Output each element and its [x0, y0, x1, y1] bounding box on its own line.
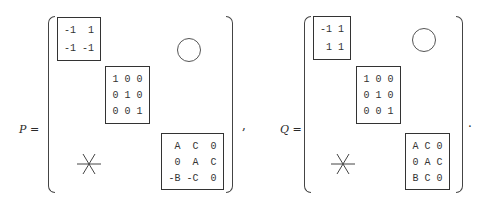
matrix-p-block-2: 1 0 0 0 1 0 0 0 1: [105, 66, 150, 124]
matrix-q-block-3-row-3: B C 0: [406, 173, 449, 184]
asterisk-block-icon: [76, 152, 102, 176]
matrix-p-label: P =: [19, 123, 39, 136]
matrix-p-left-bracket: [48, 16, 55, 193]
matrix-q-block-1: -1 1 1 1: [313, 16, 351, 60]
matrix-q-block-3-row-2: 0 A C: [406, 157, 449, 168]
matrix-p-block-1-row-1: -1 1: [58, 25, 100, 36]
matrix-p-block-2-row-3: 0 0 1: [106, 106, 149, 117]
zero-block-circle-icon: [412, 28, 436, 52]
matrix-p-block-3-row-3: -B -C 0: [162, 173, 223, 184]
matrix-q-block-2: 1 0 0 0 1 0 0 0 1: [356, 66, 401, 124]
matrix-q-left-bracket: [304, 16, 311, 193]
separator-comma: ,: [242, 118, 246, 132]
matrix-q-label: Q =: [280, 123, 302, 136]
matrix-q-block-1-row-2: 1 1: [314, 42, 350, 53]
matrix-q-block-2-row-3: 0 0 1: [357, 106, 400, 117]
matrix-q-block-2-row-2: 0 1 0: [357, 90, 400, 101]
matrix-p-right-bracket: [226, 16, 233, 193]
matrix-q-block-3-row-1: A C 0: [406, 141, 449, 152]
matrix-p-block-2-row-2: 0 1 0: [106, 90, 149, 101]
matrix-p-block-1-row-2: -1 -1: [58, 43, 100, 54]
terminator-period: .: [468, 116, 472, 130]
matrix-p-block-2-row-1: 1 0 0: [106, 74, 149, 85]
matrix-q-right-bracket: [456, 16, 463, 193]
matrix-p-block-3-row-2: 0 A C: [162, 157, 223, 168]
matrix-q-block-2-row-1: 1 0 0: [357, 74, 400, 85]
asterisk-block-icon: [330, 152, 356, 176]
matrix-p-block-3-row-1: A C 0: [162, 141, 223, 152]
matrix-p-block-1: -1 1 -1 -1: [57, 17, 101, 61]
matrix-q-block-3: A C 0 0 A C B C 0: [405, 133, 450, 190]
matrix-p-block-3: A C 0 0 A C -B -C 0: [161, 133, 224, 190]
matrix-q-block-1-row-1: -1 1: [314, 24, 350, 35]
zero-block-circle-icon: [177, 38, 201, 62]
